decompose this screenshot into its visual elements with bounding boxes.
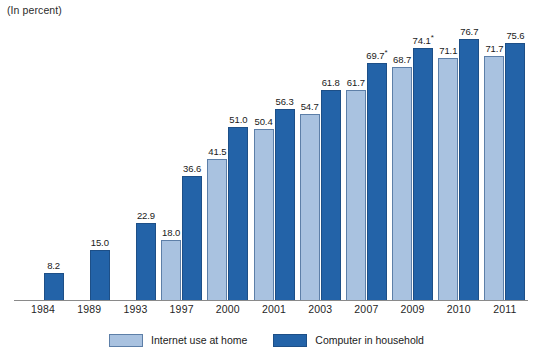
bar-value-label: 8.2 bbox=[47, 260, 60, 271]
bar-internet-use: 71.1 bbox=[438, 58, 458, 301]
bar-group: 68.774.1* bbox=[390, 10, 436, 301]
bar-value-label: 54.7 bbox=[301, 101, 319, 112]
bar-value-label: 51.0 bbox=[229, 114, 247, 125]
x-axis-tick-label: 2007 bbox=[343, 303, 389, 321]
bar-value-label: 41.5 bbox=[208, 146, 226, 157]
bar-group: 50.456.3 bbox=[251, 10, 297, 301]
bar-value-label: 71.7 bbox=[485, 43, 503, 54]
bar-value-label: 76.7 bbox=[460, 26, 478, 37]
chart-legend: Internet use at homeComputer in househol… bbox=[0, 330, 533, 350]
bar-group: 15.0 bbox=[66, 10, 112, 301]
legend-swatch bbox=[109, 334, 143, 347]
x-axis-tick-label: 2001 bbox=[251, 303, 297, 321]
bar-computer-household: 69.7* bbox=[367, 63, 387, 301]
x-axis-tick-label: 2000 bbox=[205, 303, 251, 321]
bar-internet-use: 50.4 bbox=[254, 129, 274, 301]
bar-value-label: 68.7 bbox=[393, 54, 411, 65]
x-axis-labels: 1984198919931997200020012003200720092010… bbox=[20, 303, 528, 321]
legend-item[interactable]: Internet use at home bbox=[109, 334, 247, 347]
bar-group: 71.176.7 bbox=[436, 10, 482, 301]
bar-computer-household: 74.1* bbox=[413, 48, 433, 301]
footnote-marker: * bbox=[384, 48, 387, 57]
bar-group: 61.769.7* bbox=[343, 10, 389, 301]
bar-computer-household: 76.7 bbox=[459, 39, 479, 301]
bar-value-label: 36.6 bbox=[183, 163, 201, 174]
bar-computer-household: 75.6 bbox=[505, 43, 525, 301]
bar-internet-use: 68.7 bbox=[392, 67, 412, 301]
bar-value-label: 56.3 bbox=[275, 96, 293, 107]
bar-internet-use: 61.7 bbox=[346, 90, 366, 301]
bar-value-label: 18.0 bbox=[162, 227, 180, 238]
bar-value-label: 75.6 bbox=[506, 30, 524, 41]
bar-group: 41.551.0 bbox=[205, 10, 251, 301]
bar-value-label: 22.9 bbox=[137, 210, 155, 221]
x-axis-tick-label: 1989 bbox=[66, 303, 112, 321]
legend-item[interactable]: Computer in household bbox=[273, 334, 424, 347]
bar-value-label: 61.8 bbox=[322, 77, 340, 88]
bar-value-label: 69.7* bbox=[366, 50, 387, 61]
bar-computer-household: 51.0 bbox=[228, 127, 248, 301]
x-axis-tick-label: 2010 bbox=[436, 303, 482, 321]
bar-internet-use: 18.0 bbox=[161, 240, 181, 301]
bar-computer-household: 15.0 bbox=[90, 250, 110, 301]
x-axis-line bbox=[14, 300, 528, 301]
bar-computer-household: 61.8 bbox=[321, 90, 341, 301]
x-axis-tick-label: 1997 bbox=[159, 303, 205, 321]
legend-label: Internet use at home bbox=[151, 334, 247, 346]
x-axis-tick-label: 1984 bbox=[20, 303, 66, 321]
bar-group: 54.761.8 bbox=[297, 10, 343, 301]
bar-value-label: 50.4 bbox=[254, 116, 272, 127]
bar-value-label: 15.0 bbox=[91, 237, 109, 248]
bar-computer-household: 56.3 bbox=[275, 109, 295, 301]
bar-value-label: 74.1* bbox=[413, 35, 434, 46]
bar-group: 22.9 bbox=[112, 10, 158, 301]
bar-internet-use: 71.7 bbox=[484, 56, 504, 301]
bar-groups: 8.215.022.918.036.641.551.050.456.354.76… bbox=[20, 10, 528, 301]
x-axis-tick-label: 2009 bbox=[390, 303, 436, 321]
bar-value-label: 71.1 bbox=[439, 45, 457, 56]
legend-swatch bbox=[273, 334, 307, 347]
footnote-marker: * bbox=[431, 33, 434, 42]
x-axis-tick-label: 1993 bbox=[112, 303, 158, 321]
bar-internet-use: 54.7 bbox=[300, 114, 320, 301]
x-axis-tick-label: 2003 bbox=[297, 303, 343, 321]
bar-computer-household: 36.6 bbox=[182, 176, 202, 301]
x-axis-tick-label: 2011 bbox=[482, 303, 528, 321]
bar-computer-household: 22.9 bbox=[136, 223, 156, 301]
bar-group: 18.036.6 bbox=[159, 10, 205, 301]
legend-label: Computer in household bbox=[315, 334, 424, 346]
bar-chart: (In percent) 8.215.022.918.036.641.551.0… bbox=[0, 0, 533, 353]
bar-group: 71.775.6 bbox=[482, 10, 528, 301]
bar-internet-use: 41.5 bbox=[207, 159, 227, 301]
bar-group: 8.2 bbox=[20, 10, 66, 301]
plot-area: 8.215.022.918.036.641.551.050.456.354.76… bbox=[20, 10, 528, 301]
bar-value-label: 61.7 bbox=[347, 77, 365, 88]
bar-computer-household: 8.2 bbox=[44, 273, 64, 301]
